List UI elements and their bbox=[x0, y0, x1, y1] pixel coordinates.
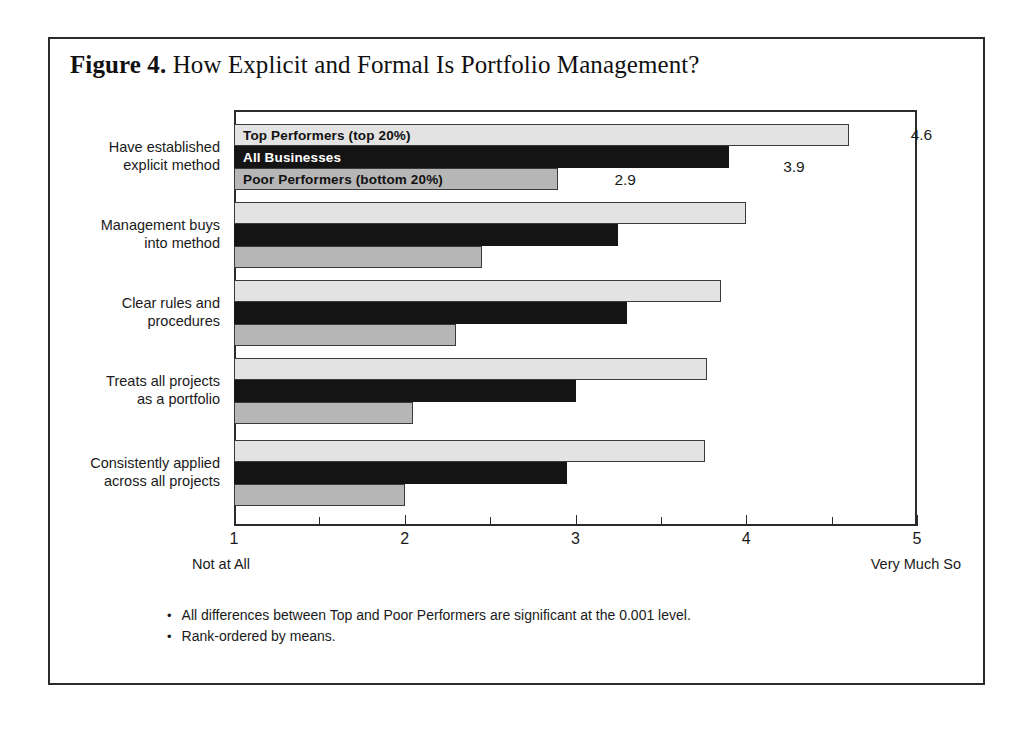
bar-top-performers bbox=[234, 358, 707, 380]
axis-label-very-much-so: Very Much So bbox=[871, 556, 961, 572]
bar-poor-performers bbox=[234, 402, 413, 424]
bar-all-businesses bbox=[234, 302, 627, 324]
bar-group: Have established explicit methodTop Perf… bbox=[234, 124, 917, 190]
category-label: Clear rules and procedures bbox=[30, 294, 220, 330]
bar-top-performers bbox=[234, 280, 721, 302]
x-tick-major bbox=[746, 515, 747, 526]
x-tick-major bbox=[234, 515, 235, 526]
footnotes: •All differences between Top and Poor Pe… bbox=[167, 605, 691, 647]
x-tick-label: 2 bbox=[400, 530, 409, 548]
bar-poor-performers bbox=[234, 246, 482, 268]
x-tick-label: 4 bbox=[742, 530, 751, 548]
bar-top-performers bbox=[234, 440, 705, 462]
x-tick-minor bbox=[832, 517, 833, 526]
x-tick-major bbox=[576, 515, 577, 526]
bar-value-label: 3.9 bbox=[783, 158, 805, 176]
bar-group: Treats all projects as a portfolio bbox=[234, 358, 917, 424]
category-label: Consistently applied across all projects bbox=[30, 454, 220, 490]
chart-plot-area: Have established explicit methodTop Perf… bbox=[234, 110, 917, 526]
x-tick-major bbox=[917, 515, 918, 526]
x-tick-minor bbox=[661, 517, 662, 526]
axis-label-not-at-all: Not at All bbox=[192, 556, 250, 572]
figure-frame: Figure 4. How Explicit and Formal Is Por… bbox=[48, 37, 985, 685]
category-label: Have established explicit method bbox=[30, 138, 220, 174]
bar-value-label: 2.9 bbox=[614, 171, 636, 189]
x-tick-label: 1 bbox=[230, 530, 239, 548]
bar-all-businesses bbox=[234, 380, 576, 402]
bar-all-businesses: All Businesses bbox=[234, 146, 729, 168]
bar-poor-performers bbox=[234, 484, 405, 506]
category-label: Treats all projects as a portfolio bbox=[30, 372, 220, 408]
bar-poor-performers: Poor Performers (bottom 20%) bbox=[234, 168, 558, 190]
footnote-item: •Rank-ordered by means. bbox=[167, 626, 691, 647]
bar-all-businesses bbox=[234, 462, 567, 484]
bar-group: Clear rules and procedures bbox=[234, 280, 917, 346]
bar-all-businesses bbox=[234, 224, 618, 246]
figure-title-text: How Explicit and Formal Is Portfolio Man… bbox=[173, 51, 700, 78]
bar-poor-performers bbox=[234, 324, 456, 346]
x-tick-minor bbox=[490, 517, 491, 526]
bar-group: Management buys into method bbox=[234, 202, 917, 268]
page-title: Figure 4. How Explicit and Formal Is Por… bbox=[70, 51, 700, 79]
category-label: Management buys into method bbox=[30, 216, 220, 252]
x-tick-major bbox=[405, 515, 406, 526]
bar-value-label: 4.6 bbox=[911, 126, 933, 144]
footnote-text: Rank-ordered by means. bbox=[182, 626, 336, 647]
bar-top-performers bbox=[234, 202, 746, 224]
legend-label-all-businesses: All Businesses bbox=[243, 150, 341, 165]
legend-label-poor-performers: Poor Performers (bottom 20%) bbox=[243, 172, 443, 187]
legend-label-top-performers: Top Performers (top 20%) bbox=[243, 128, 411, 143]
x-tick-minor bbox=[319, 517, 320, 526]
x-tick-label: 5 bbox=[913, 530, 922, 548]
footnote-item: •All differences between Top and Poor Pe… bbox=[167, 605, 691, 626]
bullet-icon: • bbox=[167, 609, 172, 622]
footnote-text: All differences between Top and Poor Per… bbox=[182, 605, 691, 626]
bar-top-performers: Top Performers (top 20%) bbox=[234, 124, 849, 146]
bullet-icon: • bbox=[167, 630, 172, 643]
figure-number: Figure 4. bbox=[70, 51, 166, 78]
x-tick-label: 3 bbox=[571, 530, 580, 548]
bar-group: Consistently applied across all projects bbox=[234, 440, 917, 506]
